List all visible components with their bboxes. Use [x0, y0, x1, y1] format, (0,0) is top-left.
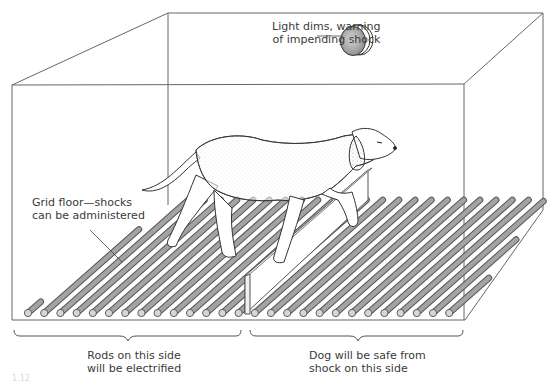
grid-floor-label-line2: can be administered [32, 209, 145, 222]
safe-side-label-line1: Dog will be safe from [309, 349, 426, 362]
safe-side-label: Dog will be safe from shock on this side [309, 349, 426, 375]
shuttle-box-illustration [0, 0, 552, 383]
electrified-side-label: Rods on this side will be electrified [87, 349, 181, 375]
warning-light-label-line1: Light dims, warning [272, 20, 380, 33]
figure-number: 1.12 [12, 372, 30, 383]
left-brace [14, 330, 241, 341]
safe-side-label-line2: shock on this side [309, 362, 426, 375]
warning-light-label: Light dims, warning of impending shock [272, 20, 380, 46]
electrified-side-label-line2: will be electrified [87, 362, 181, 375]
electrified-side-label-line1: Rods on this side [87, 349, 181, 362]
grid-floor-label-line1: Grid floor—shocks [32, 196, 145, 209]
warning-light-label-line2: of impending shock [272, 33, 380, 46]
right-brace [250, 330, 463, 341]
grid-floor-label: Grid floor—shocks can be administered [32, 196, 145, 222]
